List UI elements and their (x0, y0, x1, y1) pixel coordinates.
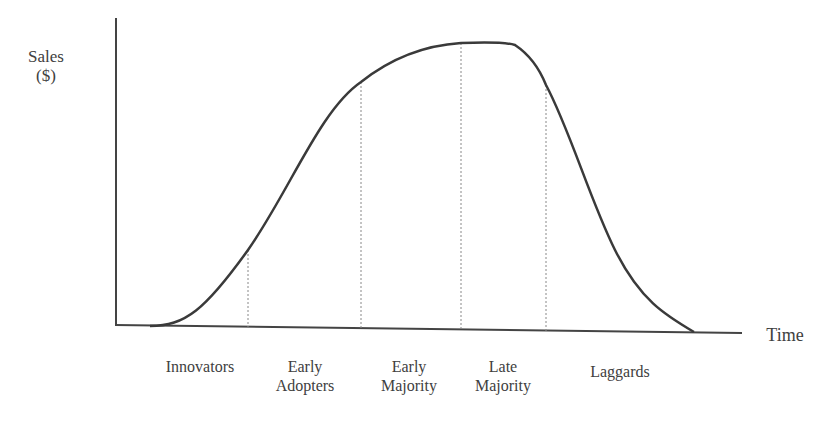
sales-curve (150, 42, 694, 332)
segment-dividers (248, 43, 546, 331)
y-axis-label: Sales ($) (20, 47, 72, 85)
x-axis-label: Time (755, 326, 815, 345)
segment-label-line: Majority (463, 376, 543, 395)
y-axis-label-line1: Sales (20, 47, 72, 66)
segment-label-line: Early (364, 357, 454, 376)
segment-label-line: Early (260, 357, 350, 376)
segment-label-line: Innovators (150, 357, 250, 376)
segment-label-laggards: Laggards (570, 362, 670, 381)
segment-label-line: Laggards (570, 362, 670, 381)
segment-label-line: Adopters (260, 376, 350, 395)
x-axis (115, 325, 742, 333)
segment-label-early-adopters: Early Adopters (260, 357, 350, 395)
segment-label-innovators: Innovators (150, 357, 250, 376)
segment-label-early-majority: Early Majority (364, 357, 454, 395)
segment-label-line: Late (463, 357, 543, 376)
y-axis-label-line2: ($) (20, 66, 72, 85)
segment-label-late-majority: Late Majority (463, 357, 543, 395)
segment-label-line: Majority (364, 376, 454, 395)
